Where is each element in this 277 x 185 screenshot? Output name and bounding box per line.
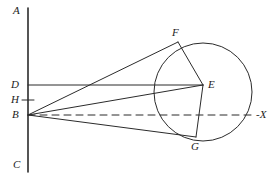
point-label-f: F — [172, 27, 179, 38]
point-label-h: H — [11, 94, 19, 105]
axis-label-negative-x: -X — [256, 109, 266, 120]
point-label-b: B — [12, 109, 19, 120]
diagram-canvas — [0, 0, 277, 185]
chord-FE — [178, 42, 203, 85]
point-label-a: A — [13, 5, 20, 16]
chord-EG — [196, 85, 203, 137]
point-label-c: C — [13, 159, 20, 170]
circle-shape — [154, 43, 252, 141]
point-label-g: G — [191, 141, 199, 152]
line-BE — [28, 85, 203, 115]
point-label-e: E — [208, 79, 215, 90]
line-BG — [28, 115, 196, 137]
geometry-diagram: A C D H B E F G -X — [0, 0, 277, 185]
segment-layer — [22, 8, 256, 172]
point-label-d: D — [11, 79, 19, 90]
